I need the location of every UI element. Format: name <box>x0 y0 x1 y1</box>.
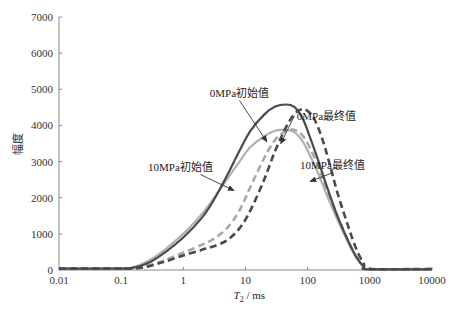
axes: 010002000300040005000600070000.010.11101… <box>31 11 446 286</box>
x-axis-title-unit: / ms <box>244 289 265 301</box>
y-tick-label: 4000 <box>31 119 54 131</box>
series-layer <box>59 105 432 270</box>
x-tick-label: 1000 <box>359 274 382 286</box>
series-line <box>59 105 432 270</box>
x-axis-title: T2 / ms <box>234 289 266 304</box>
series-line <box>59 129 432 269</box>
x-tick-label: 10 <box>240 274 252 286</box>
annotation-label: 0MPa最终值 <box>297 109 356 122</box>
annotation-label: 0MPa初始值 <box>210 86 269 99</box>
x-tick-label: 10000 <box>418 274 446 286</box>
series-line <box>59 109 432 269</box>
y-tick-label: 5000 <box>31 83 54 95</box>
y-tick-label: 1000 <box>31 228 54 240</box>
annotation-label: 10MPa最终值 <box>300 158 365 171</box>
x-tick-label: 1 <box>181 274 187 286</box>
y-tick-label: 3000 <box>31 156 54 168</box>
y-tick-label: 2000 <box>31 192 54 204</box>
x-tick-label: 100 <box>299 274 316 286</box>
x-tick-label: 0.01 <box>49 274 68 286</box>
annotation-arrow <box>239 101 266 142</box>
y-tick-label: 7000 <box>31 11 54 23</box>
y-axis-title: 幅度 <box>11 133 24 155</box>
nmr-t2-chart: 010002000300040005000600070000.010.11101… <box>0 0 458 311</box>
y-tick-label: 6000 <box>31 47 54 59</box>
x-tick-label: 0.1 <box>114 274 128 286</box>
annotation-label: 10MPa初始值 <box>148 160 213 173</box>
